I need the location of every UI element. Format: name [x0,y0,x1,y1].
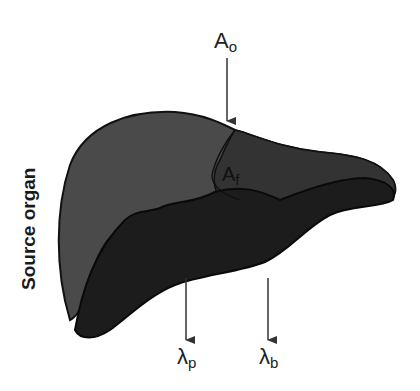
liver-illustration [0,0,420,391]
label-a-f-sub: f [235,171,239,188]
label-a-o: Ao [214,30,237,54]
source-organ-label: Source organ [18,168,40,290]
label-lambda-b-sub: b [270,354,278,371]
liver-diagram: Source organ Ao Af λp λb [0,0,420,391]
label-lambda-p-base: λ [177,344,188,369]
label-a-f: Af [222,164,240,187]
label-a-f-base: A [222,163,235,185]
label-lambda-b: λb [259,346,278,370]
label-a-o-sub: o [229,38,237,55]
label-lambda-b-base: λ [259,344,270,369]
label-lambda-p-sub: p [188,354,196,371]
label-a-o-base: A [214,28,229,53]
label-lambda-p: λp [177,346,196,370]
